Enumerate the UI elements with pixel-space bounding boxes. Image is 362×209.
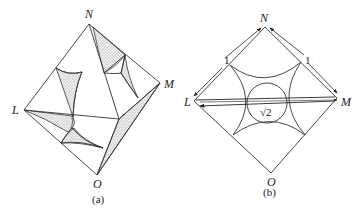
diagonal-length-label: √2 bbox=[260, 106, 272, 118]
diagonal-line-L-M bbox=[196, 97, 335, 100]
arc-left bbox=[230, 65, 246, 135]
figure-a: N M L O (a) bbox=[11, 7, 175, 206]
vertex-label-M: M bbox=[163, 77, 175, 91]
figure-b: N M L O 1 1 √2 (b) bbox=[183, 11, 352, 199]
caption-a: (a) bbox=[92, 193, 105, 206]
figure-canvas: N M L O (a) N M L O 1 1 √2 bbox=[0, 0, 362, 209]
edge-N-L bbox=[194, 27, 265, 101]
arc-top bbox=[230, 62, 301, 78]
vertex-label-M: M bbox=[340, 95, 352, 109]
vertex-label-L: L bbox=[183, 95, 191, 109]
edge-length-label-left: 1 bbox=[224, 54, 230, 66]
arrow-upper-left-to-L bbox=[194, 68, 222, 96]
shaded-region-lower-left bbox=[24, 110, 73, 132]
arc-right bbox=[289, 62, 305, 135]
vertex-label-N: N bbox=[84, 7, 94, 21]
edge-length-label-right: 1 bbox=[305, 54, 311, 66]
arrow-upper-right-to-N bbox=[270, 28, 304, 55]
caption-b: (b) bbox=[263, 186, 276, 199]
edge-M-O bbox=[97, 83, 160, 175]
vertex-label-N: N bbox=[259, 11, 269, 25]
arrow-upper-right-to-M bbox=[309, 64, 337, 93]
arc-bottom bbox=[233, 122, 305, 136]
shaded-cusp-left bbox=[56, 68, 82, 117]
vertex-label-L: L bbox=[11, 103, 19, 117]
edge-M-O bbox=[271, 98, 337, 173]
arrow-upper-left-to-N bbox=[225, 28, 261, 58]
vertex-label-O: O bbox=[93, 177, 102, 191]
edge-N-L bbox=[24, 24, 89, 110]
